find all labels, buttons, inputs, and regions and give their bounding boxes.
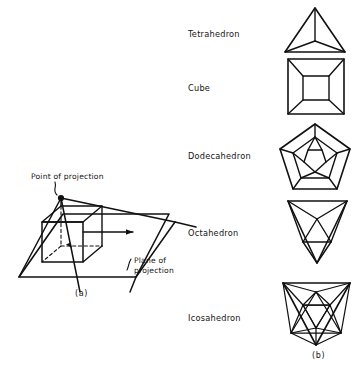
platonic-solids-projection-figure: Tetrahedron Cube Dodecahedron Octahedron… xyxy=(0,0,356,367)
solid-label-icosahedron: Icosahedron xyxy=(188,313,241,323)
cube-diagram xyxy=(288,59,344,114)
point-of-projection-dot xyxy=(58,195,64,201)
figure-linework xyxy=(0,0,356,367)
solid-label-octahedron: Octahedron xyxy=(188,228,238,238)
label-plane-of-projection-line1: Plane of xyxy=(134,256,166,266)
plane-of-projection-leader xyxy=(127,259,131,270)
icosahedron-diagram xyxy=(283,283,350,345)
octahedron-diagram xyxy=(288,201,347,263)
caption-panel-a: (a) xyxy=(75,289,88,298)
caption-panel-b: (b) xyxy=(312,351,325,360)
label-plane-of-projection-line2: projection xyxy=(134,266,174,276)
solid-label-cube: Cube xyxy=(188,83,210,93)
solid-label-dodecahedron: Dodecahedron xyxy=(188,151,251,161)
dodecahedron-diagram xyxy=(280,124,350,189)
point-of-projection-leader xyxy=(55,182,57,195)
solid-label-tetrahedron: Tetrahedron xyxy=(188,29,240,39)
projection-image-edges xyxy=(61,198,133,232)
projection-rays xyxy=(19,198,196,292)
label-point-of-projection: Point of projection xyxy=(31,172,104,182)
tetrahedron-diagram xyxy=(285,8,345,52)
